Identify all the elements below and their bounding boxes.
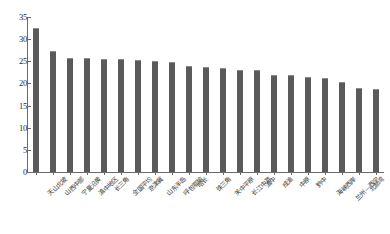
bar-slot [231, 17, 248, 172]
bar [203, 67, 209, 172]
bar-slot [180, 17, 197, 172]
bar-slot [316, 17, 333, 172]
x-axis-tick-mark [274, 172, 275, 175]
bar-series [27, 17, 384, 172]
bar [305, 77, 311, 172]
x-axis-label: 黔中 [315, 176, 328, 189]
bar [101, 59, 107, 172]
bar-slot [95, 17, 112, 172]
bar [322, 78, 328, 172]
bar [254, 70, 260, 172]
x-axis-tick-mark [359, 172, 360, 175]
x-axis-tick-mark [70, 172, 71, 175]
bar-slot [214, 17, 231, 172]
y-axis-tick-label: 25 [0, 57, 27, 66]
bar-slot [367, 17, 384, 172]
x-axis-label: 海峡西岸 [335, 176, 356, 197]
bar [237, 70, 243, 172]
y-axis-tick-label: 35 [0, 13, 27, 22]
x-axis-tick-mark [342, 172, 343, 175]
x-axis-tick-mark [291, 172, 292, 175]
bar [288, 75, 294, 172]
bar-slot [282, 17, 299, 172]
x-axis-tick-mark [138, 172, 139, 175]
x-axis-labels: 天山北坡山西中部宁夏沿黄滇中地区长三角全国平均京津冀山东半岛呼包鄂榆哈长珠三角关… [27, 176, 384, 234]
bar [50, 51, 56, 172]
bar-slot [129, 17, 146, 172]
bar [373, 89, 379, 172]
x-axis-tick-mark [376, 172, 377, 175]
x-axis-tick-mark [257, 172, 258, 175]
x-axis-tick-mark [104, 172, 105, 175]
bar [135, 60, 141, 172]
bar [339, 82, 345, 172]
bar-slot [197, 17, 214, 172]
bar-slot [78, 17, 95, 172]
y-axis-tick-label: 5 [0, 146, 27, 155]
y-axis-tick-label: 15 [0, 101, 27, 110]
bar-slot [44, 17, 61, 172]
bar-slot [112, 17, 129, 172]
y-axis-tick-label: 10 [0, 123, 27, 132]
bar [33, 28, 39, 172]
bar [356, 88, 362, 172]
y-axis-tick-label: 20 [0, 79, 27, 88]
bar [220, 68, 226, 172]
x-axis-tick-mark [53, 172, 54, 175]
x-axis-label: 中原 [298, 176, 311, 189]
x-axis-tick-mark [240, 172, 241, 175]
bar-chart: 05101520253035 天山北坡山西中部宁夏沿黄滇中地区长三角全国平均京津… [0, 0, 390, 234]
x-axis-tick-mark [206, 172, 207, 175]
y-axis-tick-label: 0 [0, 168, 27, 177]
x-axis-tick-mark [172, 172, 173, 175]
bar-slot [350, 17, 367, 172]
y-axis-tick-mark [28, 172, 31, 173]
x-axis-tick-mark [223, 172, 224, 175]
bar-slot [333, 17, 350, 172]
x-axis-tick-mark [36, 172, 37, 175]
x-axis-tick-mark [121, 172, 122, 175]
bar-slot [248, 17, 265, 172]
bar [186, 66, 192, 172]
bar [271, 75, 277, 172]
bar [118, 59, 124, 172]
bar [84, 58, 90, 172]
bar [67, 58, 73, 172]
y-axis-tick-label: 30 [0, 35, 27, 44]
x-axis-tick-mark [308, 172, 309, 175]
bar-slot [27, 17, 44, 172]
x-axis-tick-mark [189, 172, 190, 175]
bar-slot [265, 17, 282, 172]
x-axis-tick-mark [325, 172, 326, 175]
bar-slot [146, 17, 163, 172]
x-axis-tick-mark [155, 172, 156, 175]
bar-slot [299, 17, 316, 172]
bar [169, 62, 175, 172]
x-axis-tick-mark [87, 172, 88, 175]
bar-slot [163, 17, 180, 172]
bar-slot [61, 17, 78, 172]
bar [152, 61, 158, 172]
x-axis-label: 成渝 [281, 176, 294, 189]
x-axis-label: 珠三角 [215, 176, 232, 193]
